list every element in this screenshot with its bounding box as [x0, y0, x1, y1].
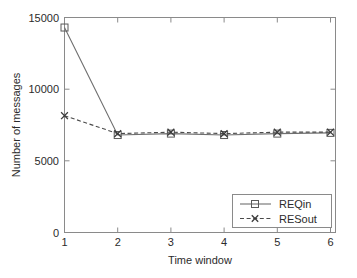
x-tick-label-5: 5 [274, 236, 280, 248]
y-tick-label-10000: 10000 [28, 83, 59, 95]
x-tick-label-4: 4 [221, 236, 227, 248]
y-tick-label-0: 0 [53, 227, 59, 239]
y-axis-label: Number of messages [10, 72, 22, 177]
x-tick-label-1: 1 [61, 236, 67, 248]
chart-figure: 15000 10000 5000 0 1 2 3 4 5 6 Time wind… [0, 0, 357, 278]
legend-label-reqin: REQin [279, 198, 311, 210]
data-series-layer [61, 24, 334, 139]
series-line-reqin [65, 28, 331, 136]
x-tick-label-2: 2 [115, 236, 121, 248]
x-tick-label-6: 6 [327, 236, 333, 248]
x-tick-label-3: 3 [168, 236, 174, 248]
x-axis-label: Time window [168, 254, 232, 266]
chart-svg: 15000 10000 5000 0 1 2 3 4 5 6 Time wind… [0, 0, 357, 278]
series-reqin [61, 24, 334, 139]
legend-label-resout: RESout [279, 213, 317, 225]
y-tick-label-15000: 15000 [28, 12, 59, 24]
chart-legend: REQin RESout [233, 195, 332, 228]
series-line-resout [65, 116, 331, 134]
y-tick-label-5000: 5000 [35, 155, 59, 167]
